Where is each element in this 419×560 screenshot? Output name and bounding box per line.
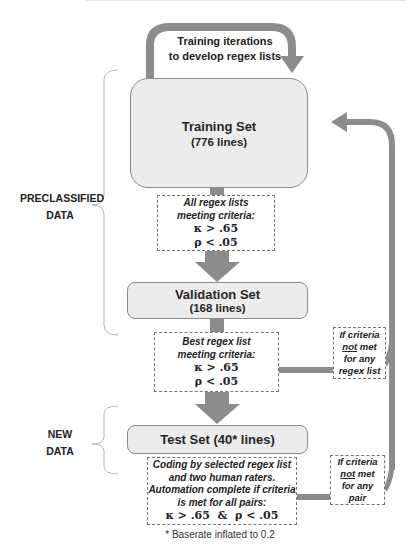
criteria2-kappa: κ > .65	[194, 361, 238, 375]
new-data-label: NEW DATA	[40, 426, 80, 460]
test-set-title: Test Set (40* lines)	[160, 432, 275, 447]
training-set-box: Training Set (776 lines)	[130, 78, 308, 188]
validation-set-box: Validation Set (168 lines)	[127, 282, 308, 319]
preclassified-label-line1: PRECLASSIFIED	[20, 190, 100, 207]
test-set-box: Test Set (40* lines)	[127, 425, 308, 454]
criteria-box-best-regex: Best regex list meeting criteria: κ > .6…	[154, 332, 279, 392]
criteria1-line2: meeting criteria:	[177, 209, 255, 222]
criteria-box-all-regex: All regex lists meeting criteria: κ > .6…	[157, 195, 275, 251]
fail-regex-line2: not met	[342, 341, 376, 353]
fail-pair-not: not	[340, 468, 355, 479]
fail-pair-line4: pair	[349, 492, 366, 504]
loop-label-line1: Training iterations	[160, 34, 290, 49]
fail-pair-met: met	[355, 468, 375, 479]
validation-set-count: (168 lines)	[189, 302, 245, 314]
new-data-label-line1: NEW	[40, 426, 80, 443]
loop-label-line2: to develop regex lists	[160, 49, 290, 64]
preclassified-data-label: PRECLASSIFIED DATA	[20, 190, 100, 224]
criteria-box-test: Coding by selected regex list and two hu…	[147, 457, 297, 525]
criteria1-line1: All regex lists	[183, 196, 248, 209]
return-arrowhead	[331, 112, 347, 132]
criteria3-math: κ > .65 & ρ < .05	[166, 509, 279, 523]
cropped-header-line	[86, 0, 406, 4]
fail-regex-line4: regex list	[339, 365, 381, 377]
fail-regex-line1: If criteria	[339, 329, 379, 341]
fail-regex-line3: for any	[344, 353, 376, 365]
criteria2-line1: Best regex list	[182, 335, 250, 348]
fail-pair-line1: If criteria	[337, 456, 377, 468]
validation-set-title: Validation Set	[175, 287, 260, 302]
training-set-title: Training Set	[182, 119, 256, 134]
criteria3-line2: and two human raters.	[169, 472, 276, 485]
fail-pair-line3: for any	[342, 480, 374, 492]
criteria3-line3: Automation complete if criteria	[148, 484, 295, 497]
new-data-label-line2: DATA	[40, 443, 80, 460]
criteria2-rho: ρ < .05	[195, 375, 238, 389]
criteria3-line4: is met for all pairs:	[178, 497, 267, 510]
criteria3-line1: Coding by selected regex list	[153, 459, 291, 472]
criteria1-rho: ρ < .05	[194, 236, 237, 250]
fail-regex-list-box: If criteria not met for any regex list	[333, 327, 386, 379]
fail-regex-not: not	[342, 341, 357, 352]
baserate-footnote: * Baserate inflated to 0.2	[140, 529, 300, 540]
training-set-count: (776 lines)	[191, 136, 247, 148]
criteria2-line2: meeting criteria:	[178, 348, 256, 361]
fail-pair-box: If criteria not met for any pair	[330, 455, 385, 505]
criteria1-kappa: κ > .65	[194, 222, 238, 236]
new-data-brace	[92, 406, 118, 474]
fail-regex-met: met	[357, 341, 377, 352]
fail-pair-line2: not met	[340, 468, 374, 480]
training-iterations-label: Training iterations to develop regex lis…	[160, 34, 290, 64]
preclassified-label-line2: DATA	[20, 207, 100, 224]
